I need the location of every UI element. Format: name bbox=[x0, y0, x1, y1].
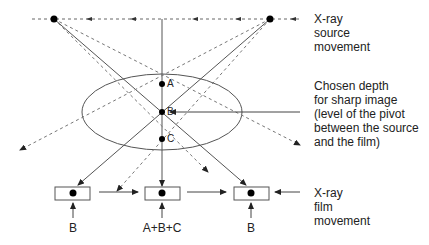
point-c-label: C bbox=[167, 133, 174, 144]
film-image-dots bbox=[70, 190, 255, 197]
point-c-dot bbox=[159, 136, 165, 142]
chosen-depth-label: Chosen depth for sharp image (level of t… bbox=[314, 79, 419, 149]
tomography-diagram: A B C X-ray source movement Chosen depth… bbox=[0, 0, 429, 245]
source-position-right bbox=[267, 16, 274, 23]
film-caption-right: B bbox=[247, 221, 255, 235]
film-movement-label: X-ray film movement bbox=[314, 186, 370, 228]
point-a-label: A bbox=[167, 78, 174, 89]
source-position-left bbox=[51, 16, 58, 23]
caption-arrows bbox=[73, 203, 251, 218]
point-b-dot bbox=[159, 109, 165, 115]
point-b-label: B bbox=[167, 106, 174, 117]
dashed-rays bbox=[20, 19, 300, 191]
source-movement-label: X-ray source movement bbox=[314, 12, 370, 54]
film-caption-center: A+B+C bbox=[143, 221, 182, 235]
film-caption-left: B bbox=[69, 221, 77, 235]
point-a-dot bbox=[159, 81, 165, 87]
solid-rays bbox=[54, 19, 270, 186]
